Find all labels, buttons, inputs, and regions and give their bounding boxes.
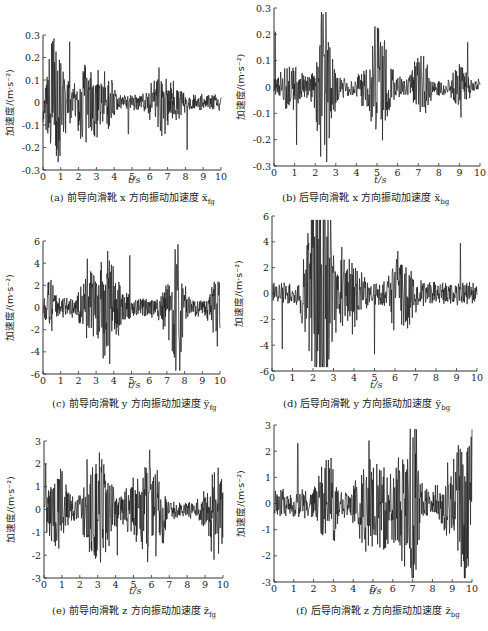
caption-subscript: bg	[440, 198, 449, 206]
x-axis-label: t/s	[129, 585, 142, 596]
y-tick-label: 4	[263, 236, 269, 247]
signal-line	[274, 12, 480, 162]
x-axis-label: t/s	[370, 379, 383, 390]
y-tick-label: -1	[32, 527, 41, 538]
x-tick-label: 9	[456, 167, 462, 178]
x-tick-label: 4	[350, 583, 356, 594]
y-tick-label: 2	[265, 446, 271, 457]
subplot-caption: (c) 前导向滑靴 y 方向振动加速度 ÿfg	[52, 395, 217, 412]
x-tick-label: 2	[310, 372, 316, 383]
subplot-d: 012345678910-6-4-20246加速度/(m·s⁻²)	[233, 211, 483, 384]
x-tick-label: 3	[95, 579, 101, 590]
subplot-caption: (e) 前导向滑靴 z 方向振动加速度 z̈fg	[52, 602, 216, 619]
x-tick-label: 3	[330, 372, 336, 383]
x-tick-label: 2	[76, 171, 82, 182]
x-tick-label: 7	[164, 375, 170, 386]
y-tick-label: -0.2	[22, 142, 40, 153]
x-tick-label: 6	[147, 171, 153, 182]
x-tick-label: 4	[353, 167, 359, 178]
y-tick-label: 2	[35, 458, 41, 469]
x-tick-label: 10	[474, 167, 486, 178]
y-tick-label: 0.3	[256, 3, 271, 14]
x-tick-label: 3	[330, 583, 336, 594]
signal-line	[43, 38, 221, 162]
y-tick-label: 0.1	[25, 75, 40, 86]
y-tick-label: 2	[263, 262, 269, 273]
x-tick-label: 8	[429, 583, 435, 594]
subplot-caption: (f) 后导向滑靴 z 方向振动加速度 z̈bg	[296, 602, 460, 619]
y-tick-label: -1	[262, 524, 271, 535]
x-tick-label: 1	[292, 167, 298, 178]
x-tick-label: 1	[58, 375, 64, 386]
caption-subscript: fg	[209, 404, 216, 412]
y-tick-label: -3	[32, 573, 41, 584]
signal-line	[272, 220, 477, 367]
y-axis-label: 加速度/(m·s⁻²)	[5, 476, 16, 543]
x-tick-label: 7	[166, 579, 172, 590]
subplot-a: 012345678910-0.3-0.2-0.100.10.20.3加速度/(m…	[4, 30, 227, 183]
x-tick-label: 1	[59, 579, 65, 590]
subplot-caption: (d) 后导向滑靴 y 方向振动加速度 ÿbg	[283, 395, 450, 412]
x-tick-label: 6	[146, 375, 152, 386]
x-tick-label: 10	[217, 579, 229, 590]
x-axis-label: t/s	[374, 174, 387, 185]
y-tick-label: 0.2	[256, 29, 271, 40]
y-tick-label: 0	[34, 97, 40, 108]
y-axis-label: 加速度/(m·s⁻²)	[4, 69, 15, 136]
y-axis-label: 加速度/(m·s⁻²)	[4, 274, 15, 341]
x-axis-label: t/s	[128, 379, 141, 390]
x-axis-label: t/s	[369, 585, 382, 596]
y-tick-label: 6	[34, 236, 40, 247]
x-tick-label: 0	[269, 372, 275, 383]
x-tick-label: 8	[184, 579, 190, 590]
x-tick-label: 10	[466, 583, 478, 594]
caption-subscript: fg	[209, 611, 216, 619]
y-tick-label: -2	[32, 550, 41, 561]
x-tick-label: 6	[392, 372, 398, 383]
subplot-c: 012345678910-6-4-20246加速度/(m·s⁻²)	[4, 236, 226, 387]
x-tick-label: 9	[453, 372, 459, 383]
y-tick-label: -0.3	[22, 165, 40, 176]
y-tick-label: 4	[34, 258, 40, 269]
y-tick-label: -0.1	[253, 108, 271, 119]
y-tick-label: 6	[263, 211, 269, 222]
x-tick-label: 7	[412, 372, 418, 383]
y-tick-label: 0	[265, 498, 271, 509]
caption-subscript: fg	[208, 198, 215, 206]
y-tick-label: -2	[31, 324, 40, 335]
y-tick-label: 1	[265, 472, 271, 483]
x-tick-label: 2	[75, 375, 81, 386]
caption-subscript: bg	[451, 611, 460, 619]
x-tick-label: 3	[333, 167, 339, 178]
subplot-e: 012345678910-3-2-10123加速度/(m·s⁻²)	[5, 436, 229, 591]
caption-subscript: bg	[441, 404, 450, 412]
x-tick-label: 0	[40, 171, 46, 182]
x-tick-label: 7	[165, 171, 171, 182]
subplot-caption: (a) 前导向滑靴 x 方向振动加速度 ẍfg	[50, 189, 215, 206]
subplot-b: 012345678910-0.3-0.2-0.100.10.20.3加速度/(m…	[235, 3, 486, 179]
x-tick-label: 8	[182, 171, 188, 182]
y-axis-label: 加速度/(m·s⁻²)	[233, 260, 244, 327]
y-tick-label: 0.2	[25, 52, 40, 63]
x-tick-label: 6	[148, 579, 154, 590]
y-tick-label: -2	[260, 314, 269, 325]
y-tick-label: -0.2	[253, 134, 271, 145]
y-tick-label: 0	[35, 504, 41, 515]
x-tick-label: 8	[433, 372, 439, 383]
x-tick-label: 4	[111, 171, 117, 182]
x-tick-label: 10	[215, 171, 227, 182]
x-tick-label: 8	[182, 375, 188, 386]
y-tick-label: 0.1	[256, 55, 271, 66]
x-tick-label: 4	[111, 375, 117, 386]
x-tick-label: 0	[40, 375, 46, 386]
x-tick-label: 9	[199, 375, 205, 386]
y-tick-label: 0.3	[25, 30, 40, 41]
x-tick-label: 2	[311, 583, 317, 594]
x-tick-label: 0	[271, 583, 277, 594]
y-tick-label: 0	[265, 82, 271, 93]
x-tick-label: 10	[214, 375, 226, 386]
y-tick-label: -3	[262, 577, 271, 588]
y-tick-label: -4	[31, 346, 40, 357]
y-tick-label: -4	[260, 340, 269, 351]
x-tick-label: 2	[312, 167, 318, 178]
